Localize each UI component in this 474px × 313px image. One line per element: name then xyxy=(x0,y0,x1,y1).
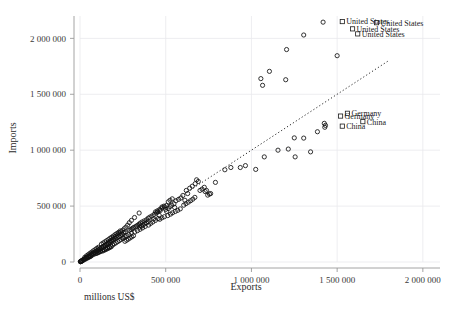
data-points-group xyxy=(78,20,339,264)
y-tick-label: 0 xyxy=(62,257,67,267)
annotation-label: United States xyxy=(362,30,405,39)
data-point xyxy=(238,165,242,169)
annotation-label: China xyxy=(346,122,366,131)
y-tick-label: 1 000 000 xyxy=(30,145,67,155)
data-point xyxy=(284,47,288,51)
x-tick-label: 500 000 xyxy=(151,275,181,285)
x-axis-title: Exports xyxy=(230,281,261,292)
data-point xyxy=(302,33,306,37)
data-point xyxy=(254,167,258,171)
y-axis-title: Imports xyxy=(7,122,18,153)
data-point xyxy=(259,77,263,81)
point-annotations-group: United StatesUnited StatesUnited StatesU… xyxy=(338,17,423,131)
scatter-chart-figure: 0500 0001 000 0001 500 0002 000 0000500 … xyxy=(0,0,474,313)
data-point xyxy=(229,165,233,169)
y-tick-label: 500 000 xyxy=(37,201,67,211)
data-point xyxy=(302,136,306,140)
x-tick-label: 0 xyxy=(78,275,83,285)
annotation-marker-icon xyxy=(350,27,354,31)
annotation-marker-icon xyxy=(340,124,344,128)
data-point xyxy=(260,83,264,87)
data-point xyxy=(315,130,319,134)
y-tick-label: 1 500 000 xyxy=(30,89,67,99)
data-point xyxy=(267,69,271,73)
chart-canvas: 0500 0001 000 0001 500 0002 000 0000500 … xyxy=(0,0,474,313)
y-tick-label: 2 000 000 xyxy=(30,34,67,44)
data-point xyxy=(284,78,288,82)
annotation-marker-icon xyxy=(340,19,344,23)
x-tick-label: 1 500 000 xyxy=(319,275,356,285)
point-annotation: China xyxy=(340,122,366,131)
data-point xyxy=(223,168,227,172)
annotation-label: China xyxy=(367,118,387,127)
data-point xyxy=(293,155,297,159)
data-point xyxy=(213,180,217,184)
data-point xyxy=(137,211,141,215)
data-point xyxy=(243,164,247,168)
point-annotation: United States xyxy=(356,30,405,39)
data-point xyxy=(321,20,325,24)
annotation-marker-icon xyxy=(338,114,342,118)
units-footnote: millions US$ xyxy=(84,292,135,302)
data-point xyxy=(262,155,266,159)
data-point xyxy=(292,136,296,140)
tick-labels-group: 0500 0001 000 0001 500 0002 000 0000500 … xyxy=(30,34,441,285)
x-tick-label: 2 000 000 xyxy=(405,275,442,285)
